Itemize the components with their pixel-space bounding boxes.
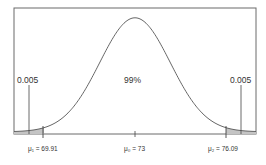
- chart-frame: [14, 8, 256, 134]
- upper-critical-value-label: μ₂ = 76.09: [208, 145, 238, 153]
- lower-critical-value-label: μ₁ = 69.91: [28, 145, 58, 153]
- normal-distribution-chart: 0.005 99% 0.005 μ₁ = 69.91 μ₀ = 73 μ₂ = …: [0, 0, 266, 165]
- left-tail-probability-label: 0.005: [17, 75, 39, 85]
- mean-value-label: μ₀ = 73: [124, 145, 145, 153]
- center-probability-label: 99%: [124, 75, 141, 85]
- right-tail-probability-label: 0.005: [230, 75, 252, 85]
